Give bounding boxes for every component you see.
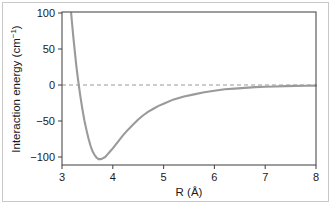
x-tick-label: 3 bbox=[59, 171, 65, 183]
interaction-energy-plot: 100500−50−100 345678 R (Å) Interaction e… bbox=[0, 0, 332, 205]
y-axis-title-group: Interaction energy (cm−1) bbox=[9, 25, 22, 153]
figure-container: 100500−50−100 345678 R (Å) Interaction e… bbox=[0, 0, 332, 205]
y-axis-title-main: Interaction energy (cm bbox=[10, 38, 22, 152]
y-tick-label: 100 bbox=[37, 7, 55, 19]
x-axis-ticks: 345678 bbox=[59, 165, 319, 183]
plot-area-background bbox=[62, 12, 316, 165]
y-tick-label: −100 bbox=[30, 151, 55, 163]
x-tick-label: 7 bbox=[262, 171, 268, 183]
y-tick-label: −50 bbox=[36, 115, 55, 127]
x-tick-label: 5 bbox=[161, 171, 167, 183]
y-tick-label: 50 bbox=[43, 43, 55, 55]
y-axis-title: Interaction energy (cm−1) bbox=[9, 25, 22, 153]
x-tick-label: 4 bbox=[110, 171, 116, 183]
y-axis-ticks: 100500−50−100 bbox=[30, 7, 62, 163]
x-tick-label: 6 bbox=[211, 171, 217, 183]
y-axis-title-close: ) bbox=[10, 25, 22, 29]
x-axis-title: R (Å) bbox=[176, 186, 203, 198]
y-tick-label: 0 bbox=[49, 79, 55, 91]
x-tick-label: 8 bbox=[313, 171, 319, 183]
